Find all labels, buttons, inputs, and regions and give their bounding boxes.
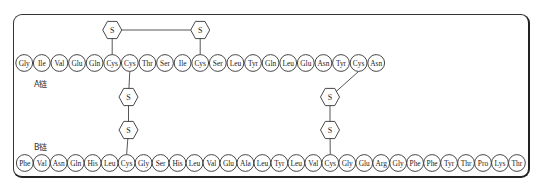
residue-label: Arg bbox=[375, 159, 387, 168]
residue-label: Ser bbox=[156, 159, 166, 168]
residue-label: Gly bbox=[19, 59, 30, 68]
residue-asn: Asn bbox=[315, 55, 332, 72]
sulfur-label: S bbox=[328, 126, 332, 135]
residue-leu: Leu bbox=[186, 155, 203, 172]
residue-label: Phe bbox=[427, 159, 439, 168]
residue-label: Thr bbox=[461, 159, 472, 168]
residue-label: Glu bbox=[223, 159, 234, 168]
residue-gly: Gly bbox=[390, 155, 407, 172]
residue-val: Val bbox=[305, 155, 322, 172]
residue-his: His bbox=[84, 155, 101, 172]
residue-ser: Ser bbox=[152, 155, 169, 172]
residue-label: Ser bbox=[160, 59, 170, 68]
residue-label: Cys bbox=[106, 59, 118, 68]
residue-gln: Gln bbox=[86, 55, 103, 72]
residue-cys: Cys bbox=[322, 155, 339, 172]
residue-glu: Glu bbox=[220, 155, 237, 172]
residue-label: Ala bbox=[240, 159, 251, 168]
residue-label: Cys bbox=[124, 59, 136, 68]
residue-label: Gly bbox=[393, 159, 404, 168]
residue-label: His bbox=[172, 159, 182, 168]
sulfur-atom: S bbox=[321, 88, 340, 105]
residue-label: Leu bbox=[189, 159, 201, 168]
residue-label: Ile bbox=[179, 59, 188, 68]
sulfur-label: S bbox=[198, 26, 202, 35]
residue-label: Lys bbox=[495, 159, 506, 168]
residue-label: Asn bbox=[370, 59, 382, 68]
residue-label: Pro bbox=[478, 159, 489, 168]
residue-thr: Thr bbox=[139, 55, 156, 72]
residue-label: Val bbox=[37, 159, 47, 168]
residue-leu: Leu bbox=[101, 155, 118, 172]
residue-cys: Cys bbox=[121, 55, 138, 72]
sulfur-atom: S bbox=[191, 21, 210, 38]
residue-label: Tyr bbox=[336, 59, 347, 68]
sulfur-label: S bbox=[328, 93, 332, 102]
residue-label: Leu bbox=[282, 59, 294, 68]
chain-a-label: A链 bbox=[34, 78, 47, 89]
residue-gln: Gln bbox=[262, 55, 279, 72]
residue-label: Thr bbox=[512, 159, 523, 168]
residue-label: His bbox=[88, 159, 98, 168]
chain-a: GlyIleValGluGlnCysCysThrSerIleCysSerLeuT… bbox=[16, 55, 385, 72]
residue-label: Tyr bbox=[444, 159, 455, 168]
residue-cys: Cys bbox=[192, 55, 209, 72]
residue-gln: Gln bbox=[67, 155, 84, 172]
residue-ile: Ile bbox=[33, 55, 50, 72]
residue-gly: Gly bbox=[339, 155, 356, 172]
residue-label: Phe bbox=[410, 159, 422, 168]
residue-phe: Phe bbox=[16, 155, 33, 172]
residue-glu: Glu bbox=[356, 155, 373, 172]
residue-leu: Leu bbox=[288, 155, 305, 172]
residue-gly: Gly bbox=[16, 55, 33, 72]
bond-lines bbox=[112, 30, 358, 155]
sulfur-atom: S bbox=[119, 88, 138, 105]
residue-label: Phe bbox=[19, 159, 31, 168]
residue-tyr: Tyr bbox=[333, 55, 350, 72]
residue-ile: Ile bbox=[174, 55, 191, 72]
residue-label: Glu bbox=[71, 59, 82, 68]
residue-lys: Lys bbox=[492, 155, 509, 172]
residue-his: His bbox=[169, 155, 186, 172]
residue-thr: Thr bbox=[458, 155, 475, 172]
residue-label: Ser bbox=[213, 59, 223, 68]
residue-label: Leu bbox=[257, 159, 269, 168]
residue-label: Ile bbox=[38, 59, 47, 68]
residue-label: Leu bbox=[104, 159, 116, 168]
residue-phe: Phe bbox=[424, 155, 441, 172]
residue-cys: Cys bbox=[104, 55, 121, 72]
sulfur-atoms: SSSSSS bbox=[103, 21, 340, 138]
residue-label: Leu bbox=[230, 59, 242, 68]
residue-label: Val bbox=[54, 59, 64, 68]
residue-label: Tyr bbox=[248, 59, 259, 68]
residue-label: Tyr bbox=[274, 159, 285, 168]
residue-asn: Asn bbox=[368, 55, 385, 72]
residue-tyr: Tyr bbox=[245, 55, 262, 72]
residue-ser: Ser bbox=[209, 55, 226, 72]
residue-pro: Pro bbox=[475, 155, 492, 172]
sulfur-label: S bbox=[110, 26, 114, 35]
residue-ser: Ser bbox=[157, 55, 174, 72]
residue-label: Gln bbox=[70, 159, 81, 168]
residue-thr: Thr bbox=[509, 155, 526, 172]
residue-arg: Arg bbox=[373, 155, 390, 172]
residue-glu: Glu bbox=[297, 55, 314, 72]
residue-label: Gln bbox=[89, 59, 100, 68]
residue-label: Thr bbox=[142, 59, 153, 68]
insulin-structure-diagram: GlyIleValGluGlnCysCysThrSerIleCysSerLeuT… bbox=[0, 0, 538, 190]
residue-label: Gly bbox=[138, 159, 149, 168]
residue-label: Gln bbox=[265, 59, 276, 68]
sulfur-atom: S bbox=[321, 121, 340, 138]
residue-cys: Cys bbox=[350, 55, 367, 72]
chain-b-label: B链 bbox=[34, 141, 48, 152]
residue-label: Glu bbox=[359, 159, 370, 168]
residue-tyr: Tyr bbox=[271, 155, 288, 172]
residue-val: Val bbox=[51, 55, 68, 72]
residue-label: Cys bbox=[121, 159, 133, 168]
residue-ala: Ala bbox=[237, 155, 254, 172]
sulfur-label: S bbox=[126, 93, 130, 102]
residue-label: Gly bbox=[342, 159, 353, 168]
residue-label: Glu bbox=[300, 59, 311, 68]
residue-label: Cys bbox=[194, 59, 206, 68]
sulfur-label: S bbox=[126, 126, 130, 135]
